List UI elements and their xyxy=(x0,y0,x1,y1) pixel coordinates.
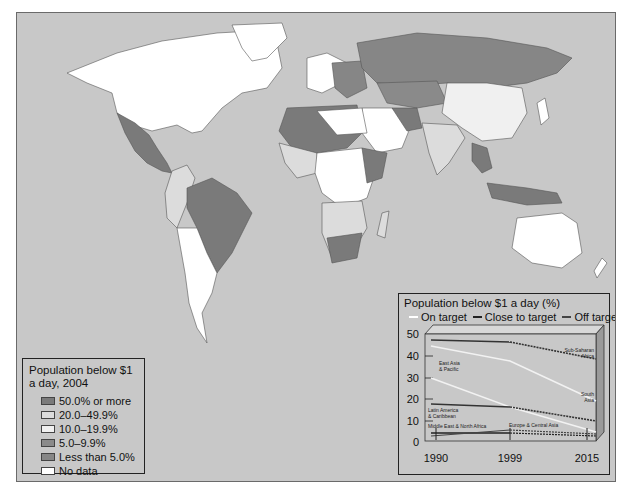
region-australia xyxy=(512,213,582,268)
region-russia xyxy=(357,33,572,88)
legend-swatch xyxy=(41,439,55,447)
legend-swatch xyxy=(41,411,55,419)
legend-label: 10.0–19.9% xyxy=(59,423,118,435)
annotation-lac: & Caribbean xyxy=(428,413,456,419)
y-tick-label: 0 xyxy=(413,436,419,448)
legend-label: Less than 5.0% xyxy=(59,451,135,463)
legend-swatch xyxy=(41,453,55,461)
region-south-africa xyxy=(327,233,362,263)
annotation-mena: Middle East & North Africa xyxy=(428,423,487,429)
legend-swatch xyxy=(41,467,55,475)
region-madagascar xyxy=(377,211,389,238)
poverty-trend-chart: Population below $1 a day (%) On target … xyxy=(398,293,610,475)
legend-item: 10.0–19.9% xyxy=(41,422,138,436)
chart-plot: 50 40 30 20 10 0 1990 1999 2015 xyxy=(399,294,611,476)
legend-label: No data xyxy=(59,465,98,477)
legend-item: Less than 5.0% xyxy=(41,450,138,464)
x-tick-label: 1999 xyxy=(498,452,522,464)
legend-label: 5.0–9.9% xyxy=(59,437,105,449)
legend-swatch xyxy=(41,397,55,405)
region-se-asia xyxy=(472,143,492,173)
y-tick-label: 50 xyxy=(407,328,419,340)
region-south-asia xyxy=(422,123,465,175)
x-tick-label: 1990 xyxy=(424,452,448,464)
legend-title: Population below $1 a day, 2004 xyxy=(29,364,138,390)
annotation-ssa: Africa xyxy=(581,353,594,359)
region-japan xyxy=(537,98,549,125)
annotation-eca: Europe & Central Asia xyxy=(509,422,558,428)
legend-label: 50.0% or more xyxy=(59,395,131,407)
region-indonesia xyxy=(487,183,562,205)
annotation-sa: Asia xyxy=(584,397,594,403)
y-tick-label: 20 xyxy=(407,393,419,405)
region-central-asia xyxy=(377,81,447,108)
legend-item: No data xyxy=(41,464,138,478)
legend-item: 20.0–49.9% xyxy=(41,408,138,422)
y-tick-label: 10 xyxy=(407,415,419,427)
box-top xyxy=(425,325,604,334)
y-tick-label: 30 xyxy=(407,372,419,384)
box-side xyxy=(596,325,604,441)
annotation-eap: & Pacific xyxy=(439,366,459,372)
legend-item: 5.0–9.9% xyxy=(41,436,138,450)
legend-item: 50.0% or more xyxy=(41,394,138,408)
map-frame: Population below $1 a day, 2004 50.0% or… xyxy=(16,12,616,482)
map-legend: Population below $1 a day, 2004 50.0% or… xyxy=(22,358,145,474)
x-tick-label: 2015 xyxy=(575,452,599,464)
y-tick-label: 40 xyxy=(407,350,419,362)
region-new-zealand xyxy=(594,258,607,278)
legend-label: 20.0–49.9% xyxy=(59,409,118,421)
legend-swatch xyxy=(41,425,55,433)
